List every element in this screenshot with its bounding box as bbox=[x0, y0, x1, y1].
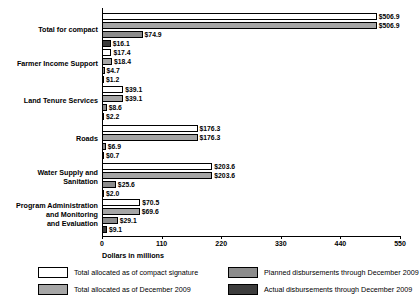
bar-value-label: $69.6 bbox=[142, 208, 159, 216]
category-label: Water Supply andSanitation bbox=[0, 168, 98, 186]
x-tick-label: 0 bbox=[82, 240, 122, 247]
bar-value-label: $506.9 bbox=[379, 13, 400, 21]
bar bbox=[102, 67, 105, 74]
bar-value-label: $17.4 bbox=[113, 49, 130, 57]
x-tick-label: 220 bbox=[201, 240, 241, 247]
x-tick bbox=[221, 236, 222, 239]
legend-label: Actual disbursements through December 20… bbox=[264, 285, 412, 294]
bar bbox=[102, 152, 104, 159]
bar bbox=[102, 143, 106, 150]
bar bbox=[102, 40, 111, 47]
x-tick bbox=[281, 236, 282, 239]
legend-swatch bbox=[228, 284, 258, 295]
bar-value-label: $74.9 bbox=[145, 31, 162, 39]
legend-label: Total allocated as of compact signature bbox=[74, 268, 198, 277]
legend-swatch bbox=[38, 267, 68, 278]
bar bbox=[102, 86, 123, 93]
legend-swatch bbox=[38, 284, 68, 295]
bar bbox=[102, 217, 118, 224]
bar bbox=[102, 181, 116, 188]
bar-value-label: $1.2 bbox=[106, 76, 119, 84]
bar bbox=[102, 22, 377, 29]
x-axis-title: Dollars in millions bbox=[102, 251, 164, 260]
category-label: Total for compact bbox=[0, 25, 98, 34]
bar bbox=[102, 172, 212, 179]
legend-swatch bbox=[228, 267, 258, 278]
legend-label: Planned disbursements through December 2… bbox=[264, 268, 419, 277]
bar-value-label: $70.5 bbox=[142, 199, 159, 207]
bar-value-label: $203.6 bbox=[214, 172, 235, 180]
bar bbox=[102, 31, 143, 38]
bar bbox=[102, 95, 123, 102]
bar bbox=[102, 226, 107, 233]
x-tick bbox=[400, 236, 401, 239]
bar bbox=[102, 49, 111, 56]
bar-value-label: $2.0 bbox=[106, 190, 119, 198]
bar bbox=[102, 199, 140, 206]
bar bbox=[102, 190, 104, 197]
bar-value-label: $39.1 bbox=[125, 86, 142, 94]
bar-value-label: $2.2 bbox=[106, 113, 119, 121]
bar-value-label: $176.3 bbox=[200, 125, 221, 133]
legend-label: Total allocated as of December 2009 bbox=[74, 285, 191, 294]
x-tick bbox=[102, 236, 103, 239]
bar-value-label: $506.9 bbox=[379, 22, 400, 30]
x-tick-label: 440 bbox=[320, 240, 360, 247]
category-label: Roads bbox=[0, 134, 98, 143]
bar-value-label: $0.7 bbox=[106, 152, 119, 160]
bar bbox=[102, 13, 377, 20]
chart-legend: Total allocated as of compact signatureT… bbox=[0, 264, 408, 301]
bar bbox=[102, 163, 212, 170]
bar-value-label: $176.3 bbox=[200, 134, 221, 142]
bar-value-label: $29.1 bbox=[120, 217, 137, 225]
bar-value-label: $203.6 bbox=[214, 163, 235, 171]
bar bbox=[102, 125, 198, 132]
bar-value-label: $16.1 bbox=[113, 40, 130, 48]
bar bbox=[102, 58, 112, 65]
bar-value-label: $9.1 bbox=[109, 226, 122, 234]
bar-value-label: $8.6 bbox=[109, 104, 122, 112]
bar bbox=[102, 113, 104, 120]
x-tick-label: 110 bbox=[142, 240, 182, 247]
category-label: Program Administrationand Monitoringand … bbox=[0, 201, 98, 228]
bar bbox=[102, 104, 107, 111]
bar-value-label: $18.4 bbox=[114, 58, 131, 66]
x-tick bbox=[162, 236, 163, 239]
bar bbox=[102, 134, 198, 141]
bar-value-label: $25.6 bbox=[118, 181, 135, 189]
x-tick-label: 550 bbox=[380, 240, 420, 247]
bar-value-label: $39.1 bbox=[125, 95, 142, 103]
bar bbox=[102, 208, 140, 215]
bar-value-label: $4.7 bbox=[107, 67, 120, 75]
x-tick-label: 330 bbox=[261, 240, 301, 247]
category-label: Farmer Income Support bbox=[0, 59, 98, 68]
bar bbox=[102, 76, 104, 83]
category-label: Land Tenure Services bbox=[0, 96, 98, 105]
x-tick bbox=[340, 236, 341, 239]
bar-value-label: $6.9 bbox=[108, 143, 121, 151]
